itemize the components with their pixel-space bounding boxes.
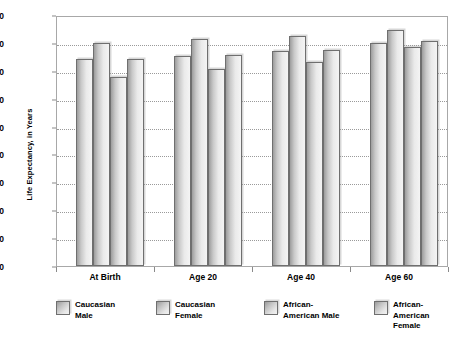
bar <box>404 47 421 266</box>
bar-group <box>370 17 438 266</box>
bar <box>421 41 438 266</box>
bar <box>174 56 191 266</box>
bar-series-container <box>57 17 447 266</box>
x-axis-tick-mark <box>448 267 449 272</box>
bar <box>370 43 387 266</box>
legend-item[interactable]: African- American Female <box>374 300 456 332</box>
bar <box>323 50 340 266</box>
y-axis-tick-label: 20 <box>0 206 4 216</box>
y-axis-tick-label: 70 <box>0 67 4 77</box>
legend-label: African- American Male <box>283 300 339 321</box>
bar <box>225 55 242 266</box>
legend-swatch-icon <box>156 301 170 315</box>
y-axis-tick-label: 30 <box>0 178 4 188</box>
plot-area <box>56 16 448 267</box>
y-axis-tick-label: 60 <box>0 95 4 105</box>
bar-group <box>272 17 340 266</box>
bar <box>306 62 323 266</box>
legend-label: African- American Female <box>393 300 456 332</box>
legend-label: Caucasian Female <box>175 300 215 321</box>
bar <box>191 39 208 266</box>
bar <box>127 59 144 266</box>
bar <box>387 30 404 266</box>
x-axis-tick-mark <box>252 267 253 272</box>
legend-item[interactable]: African- American Male <box>264 300 339 321</box>
legend-swatch-icon <box>264 301 278 315</box>
bar-chart-figure: Life Expectancy, in Years 90807060504030… <box>0 0 465 341</box>
bar-group <box>174 17 242 266</box>
y-axis-tick-label: 10 <box>0 234 4 244</box>
x-axis-tick-mark <box>154 267 155 272</box>
y-axis-tick-label: 0 <box>0 262 4 272</box>
legend-swatch-icon <box>56 301 70 315</box>
y-axis-tick-label: 50 <box>0 123 4 133</box>
y-axis-title: Life Expectancy, in Years <box>25 70 34 240</box>
x-axis-tick-label: Age 60 <box>339 272 459 282</box>
legend-item[interactable]: Caucasian Male <box>56 300 115 321</box>
chart-legend: Caucasian MaleCaucasian FemaleAfrican- A… <box>56 300 456 340</box>
legend-item[interactable]: Caucasian Female <box>156 300 215 321</box>
x-axis-tick-mark <box>350 267 351 272</box>
y-axis-tick-label: 80 <box>0 39 4 49</box>
y-axis-tick-label: 40 <box>0 150 4 160</box>
y-axis-tick-label: 90 <box>0 11 4 21</box>
legend-swatch-icon <box>374 301 388 315</box>
bar <box>289 36 306 266</box>
bar <box>76 59 93 266</box>
legend-label: Caucasian Male <box>75 300 115 321</box>
bar <box>110 77 127 266</box>
bar-group <box>76 17 144 266</box>
bar <box>208 69 225 266</box>
bar <box>93 43 110 266</box>
x-axis-tick-mark <box>56 267 57 272</box>
bar <box>272 51 289 266</box>
